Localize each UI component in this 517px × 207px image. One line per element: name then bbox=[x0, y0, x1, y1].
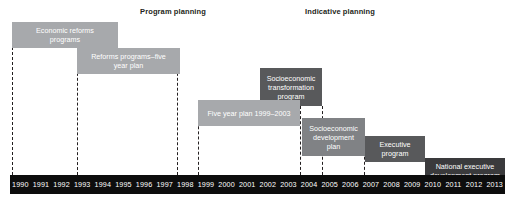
axis-year: 1997 bbox=[154, 180, 175, 189]
plot-area: Economic reforms programs Reforms progra… bbox=[0, 18, 517, 175]
axis-year: 1994 bbox=[93, 180, 114, 189]
bar-reforms-programs-five-year-plan[interactable]: Reforms programs–five year plan bbox=[77, 48, 180, 74]
axis-year: 2007 bbox=[361, 180, 382, 189]
bar-economic-reforms-programs[interactable]: Economic reforms programs bbox=[12, 22, 118, 48]
bar-executive-program[interactable]: Executive program bbox=[365, 136, 425, 162]
axis-year: 2001 bbox=[237, 180, 258, 189]
section-heading-indicative-planning: Indicative planning bbox=[305, 7, 375, 16]
axis-year: 1993 bbox=[72, 180, 93, 189]
axis-year: 2003 bbox=[278, 180, 299, 189]
axis-year: 1995 bbox=[113, 180, 134, 189]
axis-year: 2006 bbox=[340, 180, 361, 189]
axis-year: 1991 bbox=[31, 180, 52, 189]
guide-line-1990 bbox=[12, 32, 13, 175]
year-axis: 1990 1991 1992 1993 1994 1995 1996 1997 … bbox=[10, 175, 505, 194]
axis-year: 2013 bbox=[484, 180, 505, 189]
guide-line-1993 bbox=[77, 58, 78, 175]
axis-year: 1998 bbox=[175, 180, 196, 189]
axis-year: 2010 bbox=[423, 180, 444, 189]
bar-five-year-plan-1999-2003[interactable]: Five year plan 1999–2003 bbox=[198, 100, 300, 126]
axis-year: 2002 bbox=[258, 180, 279, 189]
guide-line-1997 bbox=[177, 58, 178, 175]
axis-year: 2012 bbox=[464, 180, 485, 189]
axis-year: 1999 bbox=[196, 180, 217, 189]
guide-line-2003 bbox=[300, 106, 301, 175]
axis-year: 2004 bbox=[299, 180, 320, 189]
axis-year: 2011 bbox=[443, 180, 464, 189]
axis-year: 2000 bbox=[216, 180, 237, 189]
axis-year: 1992 bbox=[51, 180, 72, 189]
timeline-gantt-figure: Program planning Indicative planning Eco… bbox=[0, 0, 517, 207]
axis-year: 1990 bbox=[10, 180, 31, 189]
axis-year: 2008 bbox=[381, 180, 402, 189]
axis-year: 1996 bbox=[134, 180, 155, 189]
axis-year: 2009 bbox=[402, 180, 423, 189]
bar-socioeconomic-development-plan[interactable]: Socioeconomic development plan bbox=[302, 118, 365, 156]
section-heading-program-planning: Program planning bbox=[140, 7, 206, 16]
axis-year: 2005 bbox=[319, 180, 340, 189]
